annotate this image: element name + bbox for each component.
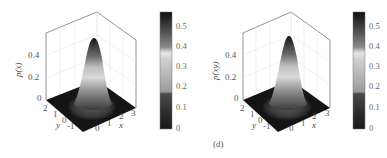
- x-tick: 0: [289, 123, 294, 133]
- colorbar-tick: 0.2: [176, 81, 187, 91]
- x-tick: 3: [325, 108, 330, 118]
- x-axis-label: x: [118, 120, 123, 130]
- z-tick: 0.2: [28, 72, 39, 82]
- colorbar-tick: 0: [176, 123, 180, 133]
- x-tick: 3: [131, 108, 136, 118]
- figure-caption: (d): [213, 139, 224, 149]
- z-tick: 0: [234, 93, 239, 103]
- colorbar-tick: 0.5: [176, 21, 187, 31]
- surface-plot-right: 0.4 0.2 0 p(xy) 2 1 y 0 -1 0 1 2 x 3 0 0…: [192, 0, 387, 158]
- x-tick: 1: [301, 118, 306, 128]
- z-tick: 0.4: [28, 50, 40, 60]
- colorbar-tick: 0.4: [369, 41, 380, 51]
- y-tick: 2: [43, 103, 48, 113]
- x-tick: 0: [95, 123, 100, 133]
- colorbar-tick: 0.2: [369, 81, 380, 91]
- y-tick: -1: [263, 121, 271, 131]
- z-tick: 0: [37, 93, 42, 103]
- colorbar-tick: 0.5: [369, 21, 380, 31]
- colorbar-tick: 0.3: [369, 61, 380, 71]
- x-tick: 1: [107, 118, 112, 128]
- z-axis-label: p(xy): [210, 62, 220, 81]
- y-tick: 1: [53, 109, 58, 119]
- y-tick: 2: [240, 103, 245, 113]
- y-axis-label: y: [251, 120, 256, 130]
- colorbar-tick: 0: [369, 123, 373, 133]
- z-axis-label: p(x): [13, 63, 23, 79]
- gaussian-peak: [269, 36, 307, 110]
- y-tick: 1: [250, 109, 255, 119]
- y-axis-label: y: [55, 120, 60, 130]
- gaussian-peak: [74, 38, 112, 110]
- colorbar-tick: 0.4: [176, 41, 187, 51]
- z-tick: 0.4: [225, 50, 237, 60]
- surface-plot-left: 0.4 0.2 0 p(x) 2 1 y 0 -1 0 1 2 x 3 0 0.…: [0, 0, 195, 158]
- colorbar-tick: 0.3: [176, 61, 187, 71]
- z-tick: 0.2: [225, 72, 236, 82]
- y-tick: -1: [67, 121, 75, 131]
- colorbar-tick: 0.1: [369, 102, 380, 112]
- colorbar: [160, 12, 172, 129]
- colorbar-tick: 0.1: [176, 102, 187, 112]
- colorbar: [353, 12, 365, 129]
- surface-plot-left-svg: 0.4 0.2 0 p(x) 2 1 y 0 -1 0 1 2 x 3 0 0.…: [0, 0, 195, 158]
- surface-plot-right-svg: 0.4 0.2 0 p(xy) 2 1 y 0 -1 0 1 2 x 3 0 0…: [192, 0, 387, 158]
- x-axis-label: x: [311, 120, 316, 130]
